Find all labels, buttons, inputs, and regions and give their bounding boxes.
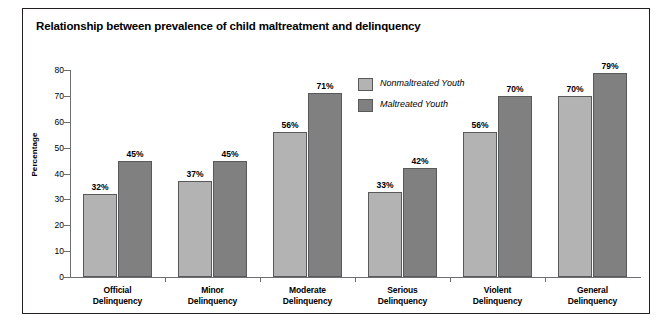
bar-value-label: 70% [566,84,583,94]
y-tick-label: 70 [18,91,64,101]
category-label: SeriousDelinquency [355,285,450,307]
bar-maltreated: 42% [403,168,437,277]
category-label-line: Violent [450,285,545,296]
category-label-line: Delinquency [450,296,545,307]
category-label: MinorDelinquency [165,285,260,307]
category-label-line: Serious [355,285,450,296]
bar-maltreated: 45% [118,161,152,277]
category-label: ModerateDelinquency [260,285,355,307]
bar-value-label: 56% [471,120,488,130]
category-label: OfficialDelinquency [70,285,165,307]
category-label-line: Delinquency [545,296,640,307]
y-tick-label: 30 [18,194,64,204]
bar-nonmaltreated: 56% [273,132,307,277]
bar-group: 56%71% [273,70,342,277]
bar-value-label: 56% [281,120,298,130]
category-label-line: Moderate [260,285,355,296]
category-label-line: Official [70,285,165,296]
figure-container: Relationship between prevalence of child… [0,0,669,322]
category-label: ViolentDelinquency [450,285,545,307]
y-tick-label: 50 [18,143,64,153]
bar-maltreated: 70% [498,96,532,277]
category-label-line: Minor [165,285,260,296]
bar-value-label: 45% [221,149,238,159]
bar-nonmaltreated: 56% [463,132,497,277]
legend-label-nonmaltreated: Nonmaltreated Youth [380,78,464,88]
x-tick [165,277,166,282]
bar-maltreated: 71% [308,93,342,277]
bar-nonmaltreated: 37% [178,181,212,277]
bar-value-label: 32% [91,182,108,192]
x-tick [355,277,356,282]
bar-group: 37%45% [178,70,247,277]
bar-value-label: 45% [126,149,143,159]
bar-nonmaltreated: 70% [558,96,592,277]
x-tick [260,277,261,282]
category-label-line: Delinquency [165,296,260,307]
bar-nonmaltreated: 32% [83,194,117,277]
bar-value-label: 37% [186,169,203,179]
legend-label-maltreated: Maltreated Youth [380,99,448,109]
x-tick [545,277,546,282]
y-tick-label: 80 [18,65,64,75]
category-label-line: Delinquency [70,296,165,307]
bar-nonmaltreated: 33% [368,192,402,277]
y-tick-label: 60 [18,117,64,127]
bar-value-label: 33% [376,180,393,190]
y-tick-label: 40 [18,169,64,179]
category-label-line: General [545,285,640,296]
category-label: GeneralDelinquency [545,285,640,307]
bar-value-label: 79% [601,61,618,71]
bar-value-label: 71% [316,81,333,91]
bar-value-label: 70% [506,84,523,94]
bar-group: 70%79% [558,70,627,277]
y-tick [64,277,70,278]
bar-group: 56%70% [463,70,532,277]
bar-group: 32%45% [83,70,152,277]
legend-swatch-icon-maltreated [358,99,373,112]
chart-title: Relationship between prevalence of child… [36,20,421,32]
y-tick-label: 10 [18,246,64,256]
legend-swatch-icon-nonmaltreated [358,78,373,91]
bar-value-label: 42% [411,156,428,166]
x-tick [450,277,451,282]
y-tick-label: 0 [18,272,64,282]
category-label-line: Delinquency [260,296,355,307]
y-tick-label: 20 [18,220,64,230]
plot-area: 32%45%37%45%56%71%33%42%56%70%70%79% [70,70,640,277]
category-label-line: Delinquency [355,296,450,307]
bar-maltreated: 79% [593,73,627,277]
bar-maltreated: 45% [213,161,247,277]
